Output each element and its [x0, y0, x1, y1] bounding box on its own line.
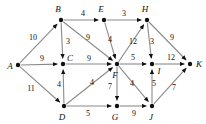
edge-weight-label: 12 — [167, 54, 175, 62]
node-label-k: K — [196, 60, 202, 69]
node-label-b: B — [55, 5, 61, 14]
graph-edge — [20, 67, 60, 102]
edge-weight-label: 3 — [122, 10, 126, 18]
edge-weight-label: 11 — [27, 85, 35, 93]
edge-weight-label: 9 — [132, 110, 136, 118]
graph-node-b — [59, 18, 63, 22]
graph-node-f — [115, 62, 119, 66]
edge-weight-label: 3 — [150, 38, 154, 46]
graph-node-c — [61, 62, 65, 66]
edge-weight-label: 9 — [87, 55, 91, 63]
graph-edge — [20, 24, 57, 63]
graph-edge — [61, 23, 63, 59]
edge-weight-label: 4 — [130, 80, 134, 88]
edge-weight-label: 9 — [170, 34, 174, 42]
edge-weight-label: 7 — [172, 84, 176, 92]
edge-weight-label: 9 — [86, 34, 90, 42]
edge-weight-label: 3 — [66, 38, 70, 46]
graph-edge — [21, 64, 58, 65]
graph-node-i — [150, 62, 154, 66]
edge-layer — [20, 20, 186, 106]
graph-node-e — [102, 18, 106, 22]
edge-weight-label: 4 — [81, 10, 85, 18]
node-label-c: C — [67, 54, 73, 63]
graph-edge — [63, 70, 64, 104]
graph-canvas — [0, 0, 206, 124]
edge-weight-label: 4 — [108, 36, 112, 44]
graph-node-a — [16, 63, 20, 67]
graph-node-j — [150, 104, 154, 108]
node-label-g: G — [112, 113, 119, 122]
node-label-j: J — [149, 113, 153, 122]
node-layer — [16, 18, 192, 108]
edge-weight-label: 9 — [40, 55, 44, 63]
edge-weight-label: 4 — [57, 81, 61, 89]
node-label-i: I — [158, 67, 161, 76]
edge-weight-label: 5 — [86, 110, 90, 118]
graph-node-k — [188, 62, 192, 66]
edge-weight-label: 10 — [29, 34, 37, 42]
node-label-a: A — [7, 62, 13, 71]
edge-weight-label: 5 — [131, 54, 135, 62]
edge-weight-label: 12 — [129, 38, 137, 46]
node-label-e: E — [98, 5, 104, 14]
graph-node-d — [62, 104, 66, 108]
directed-graph-figure: 10911439944534125749391257 ABCDEFGHIJK — [0, 0, 206, 124]
edge-weight-label: 5 — [152, 80, 156, 88]
graph-node-h — [145, 18, 149, 22]
graph-node-g — [115, 104, 119, 108]
edge-weight-label: 4 — [90, 79, 94, 87]
node-label-f: F — [112, 71, 118, 80]
node-label-h: H — [142, 5, 149, 14]
node-label-d: D — [59, 113, 66, 122]
edge-weight-label: 7 — [108, 83, 112, 91]
